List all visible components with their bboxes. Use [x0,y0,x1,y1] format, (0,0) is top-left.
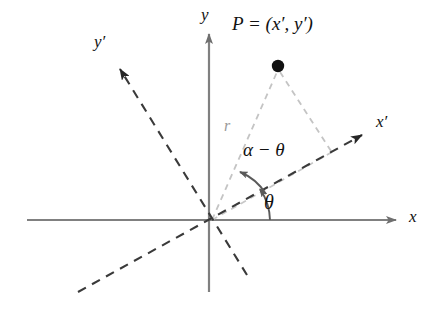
p-to-x-prime-line [280,72,333,154]
coordinate-diagram [0,0,433,314]
theta-angle-label: θ [264,192,274,212]
y-prime-axis-label: y′ [94,33,105,50]
radius-label: r [224,118,230,134]
x-axis-label: x [409,208,417,225]
point-p-label: P = (x′, y′) [232,14,313,33]
x-prime-axis-line [78,135,362,292]
figure-root: y x y′ x′ P = (x′, y′) r θ α − θ [0,0,433,314]
y-prime-axis-line [120,69,247,275]
y-axis-label: y [201,6,209,23]
point-p-marker [272,60,284,72]
x-prime-axis-label: x′ [376,113,387,130]
alpha-minus-theta-angle-label: α − θ [243,140,285,159]
